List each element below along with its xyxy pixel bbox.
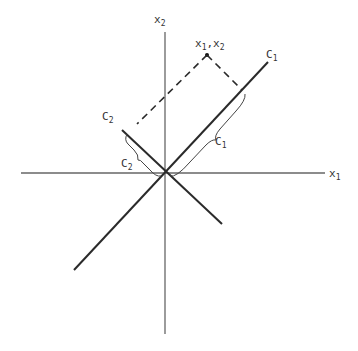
projection-to-c1 <box>207 55 242 90</box>
rotation-diagram: x2 x1 x1,x2 C1 C2 C1 C2 <box>0 0 358 351</box>
projection-to-c2 <box>137 55 207 124</box>
x2-axis-label: x2 <box>154 13 166 28</box>
c1-projection-label: C1 <box>215 135 227 150</box>
c2-projection-label: C2 <box>121 157 133 172</box>
c1-axis <box>74 62 268 270</box>
c2-axis-label: C2 <box>102 110 114 125</box>
x1-axis-label: x1 <box>329 167 341 182</box>
c1-brace <box>170 94 245 176</box>
point-label: x1,x2 <box>195 37 225 52</box>
c1-axis-label: C1 <box>266 48 278 63</box>
